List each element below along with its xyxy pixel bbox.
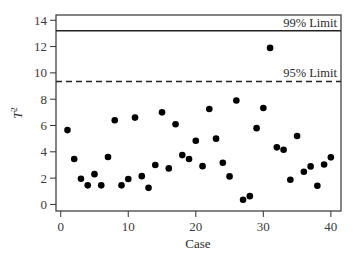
data-point bbox=[260, 105, 267, 112]
data-point bbox=[240, 197, 247, 204]
plot-frame bbox=[56, 15, 341, 211]
data-point bbox=[179, 152, 186, 159]
data-point bbox=[192, 137, 199, 144]
data-point bbox=[91, 171, 98, 178]
data-point bbox=[307, 163, 314, 170]
x-axis: 010203040 bbox=[57, 211, 337, 234]
y-axis-label-superscript: 2 bbox=[9, 107, 19, 112]
data-point bbox=[152, 162, 159, 169]
data-point bbox=[328, 154, 335, 161]
data-point bbox=[132, 114, 139, 121]
y-tick-label: 12 bbox=[34, 39, 47, 54]
x-axis-label: Case bbox=[185, 236, 211, 251]
reference-line-label: 99% Limit bbox=[283, 16, 337, 30]
data-point bbox=[294, 133, 301, 140]
data-point bbox=[105, 154, 112, 161]
y-tick-label: 6 bbox=[41, 118, 48, 133]
data-point bbox=[267, 45, 274, 52]
y-tick-label: 14 bbox=[34, 13, 48, 28]
y-tick-label: 2 bbox=[41, 171, 48, 186]
x-tick-label: 40 bbox=[324, 219, 337, 234]
y-tick-label: 0 bbox=[41, 197, 48, 212]
data-point bbox=[226, 173, 233, 180]
data-point bbox=[98, 182, 105, 189]
data-point bbox=[280, 146, 287, 153]
y-axis-label: T2 bbox=[9, 107, 25, 119]
t2-control-chart: 02468101214 010203040 99% Limit95% Limit… bbox=[0, 0, 355, 265]
data-point bbox=[287, 177, 294, 184]
data-point bbox=[159, 109, 166, 116]
reference-lines: 99% Limit95% Limit bbox=[56, 16, 341, 82]
reference-line-label: 95% Limit bbox=[283, 66, 337, 80]
data-point bbox=[220, 159, 227, 166]
data-point bbox=[145, 185, 152, 192]
data-point bbox=[118, 182, 125, 189]
data-point bbox=[125, 176, 132, 183]
data-point bbox=[233, 97, 240, 104]
data-point bbox=[111, 117, 118, 124]
data-point bbox=[274, 144, 281, 151]
data-point bbox=[199, 163, 206, 170]
data-point bbox=[71, 156, 78, 163]
data-point bbox=[321, 161, 328, 168]
x-tick-label: 0 bbox=[57, 219, 64, 234]
data-point bbox=[172, 121, 179, 128]
data-point bbox=[253, 125, 260, 132]
data-point bbox=[84, 182, 91, 189]
data-point bbox=[78, 175, 85, 182]
x-tick-label: 20 bbox=[189, 219, 202, 234]
data-point bbox=[64, 127, 71, 134]
data-point bbox=[213, 135, 220, 142]
y-tick-label: 4 bbox=[41, 144, 48, 159]
x-tick-label: 10 bbox=[122, 219, 135, 234]
data-point bbox=[186, 156, 193, 163]
data-point bbox=[247, 193, 254, 200]
data-point bbox=[301, 169, 308, 176]
data-point bbox=[165, 165, 172, 172]
data-point bbox=[138, 173, 145, 180]
y-tick-label: 8 bbox=[41, 92, 48, 107]
data-point bbox=[314, 182, 321, 189]
x-tick-label: 30 bbox=[257, 219, 270, 234]
y-tick-label: 10 bbox=[34, 65, 47, 80]
y-axis: 02468101214 bbox=[34, 13, 56, 212]
data-point bbox=[206, 106, 213, 113]
